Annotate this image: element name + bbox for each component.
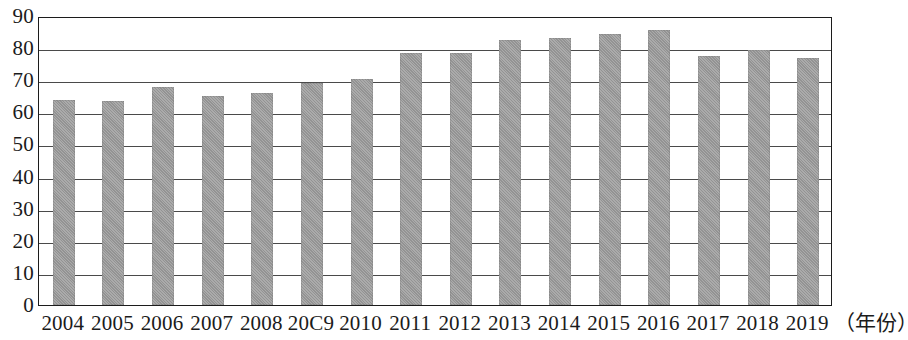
x-axis-tick-label: 2013 (485, 310, 535, 336)
x-axis-tick-label: 2017 (683, 310, 733, 336)
bar (499, 40, 521, 305)
bar (251, 93, 273, 305)
bar (450, 53, 472, 305)
x-axis-tick-label: 2012 (435, 310, 485, 336)
x-axis-tick-label: 2004 (38, 310, 88, 336)
y-axis-tick-label: 30 (0, 199, 34, 220)
x-axis-tick-label: 20C9 (286, 310, 336, 336)
y-axis-tick-label: 60 (0, 102, 34, 123)
y-axis-tick-label: 70 (0, 70, 34, 91)
y-axis-tick-label: 20 (0, 231, 34, 252)
bar (797, 58, 819, 305)
bar (301, 83, 323, 305)
bar (400, 53, 422, 305)
bar (599, 34, 621, 305)
x-axis-tick-label: 2006 (137, 310, 187, 336)
y-axis-tick-label: 40 (0, 167, 34, 188)
y-axis-tick-label: 90 (0, 6, 34, 27)
bar (102, 101, 124, 305)
x-axis-tick-label: 2011 (385, 310, 435, 336)
x-axis-tick-label: 2007 (187, 310, 237, 336)
bar (152, 87, 174, 305)
x-axis-tick-label: 2010 (336, 310, 386, 336)
x-axis-tick-label: 2019 (782, 310, 832, 336)
bar (748, 50, 770, 305)
x-axis-tick-label: 2008 (237, 310, 287, 336)
bar (53, 100, 75, 306)
y-axis: 9080706050403020100 (0, 0, 34, 340)
plot-area (38, 17, 832, 306)
bar (648, 30, 670, 305)
bars-group (39, 18, 831, 305)
x-axis: 2004200520062007200820C92010201120122013… (38, 310, 832, 340)
bar (698, 56, 720, 305)
x-axis-title: （年份） (834, 310, 908, 336)
x-axis-tick-label: 2005 (88, 310, 138, 336)
bar (351, 79, 373, 305)
y-axis-tick-label: 80 (0, 38, 34, 59)
bar (202, 96, 224, 305)
y-axis-tick-label: 50 (0, 134, 34, 155)
x-axis-tick-label: 2014 (534, 310, 584, 336)
x-axis-tick-label: 2016 (634, 310, 684, 336)
x-axis-tick-label: 2015 (584, 310, 634, 336)
x-axis-tick-label: 2018 (733, 310, 783, 336)
y-axis-tick-label: 0 (0, 295, 34, 316)
y-axis-tick-label: 10 (0, 263, 34, 284)
bar (549, 38, 571, 305)
bar-chart: 9080706050403020100 20042005200620072008… (0, 0, 908, 340)
